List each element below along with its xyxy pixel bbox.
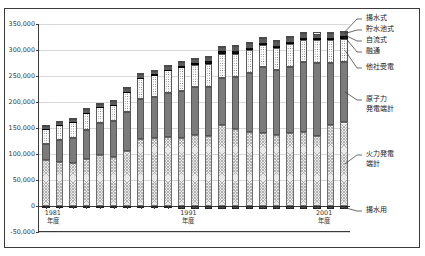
x-tick-label-unit: 年度 [316,218,332,226]
x-tick-label-unit: 年度 [180,218,196,226]
x-tick-label: 1981年度 [45,210,61,225]
x-tick-label-unit: 年度 [45,218,61,226]
x-tick-label: 1991年度 [180,210,196,225]
x-tick-label: 2001年度 [316,210,332,225]
stacked-bar-chart: 350,000300,000250,000200,000150,000100,0… [0,0,425,256]
x-axis-labels: 1981年度1991年度2001年度 [0,0,425,256]
